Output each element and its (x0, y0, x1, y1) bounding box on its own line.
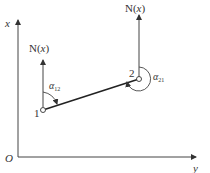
north-arrow-2: N(x) (125, 2, 146, 77)
azimuth-diagram: x y O N(x) N(x) α12 α21 1 2 (0, 0, 210, 173)
alpha-21-label: α21 (153, 71, 164, 83)
point-2-label: 2 (129, 67, 135, 79)
north-arrow-1: N(x) (29, 42, 50, 107)
point-1-label: 1 (34, 107, 40, 119)
x-axis-label: x (4, 17, 10, 29)
y-axis-label: y (192, 162, 198, 173)
origin-label: O (5, 152, 13, 164)
alpha-12-label: α12 (49, 80, 60, 92)
north-label-1: N(x) (29, 42, 50, 55)
point-2: 2 (129, 67, 142, 82)
y-axis: y (18, 157, 198, 173)
point-1: 1 (34, 107, 46, 119)
x-axis: x (4, 17, 18, 157)
segment-1-2 (43, 79, 139, 110)
north-label-2: N(x) (125, 2, 146, 15)
angle-alpha-12: α12 (43, 80, 60, 104)
